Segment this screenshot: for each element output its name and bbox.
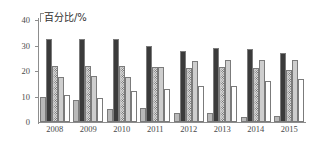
y-tick-mark — [35, 71, 38, 72]
bar-2012-series-4 — [192, 61, 198, 122]
x-tick-label: 2015 — [272, 125, 306, 134]
bar-2014-series-1 — [241, 117, 247, 122]
bar-2013-series-5 — [231, 86, 237, 122]
bar-2014-series-3 — [253, 68, 259, 122]
bar-2009-series-1 — [73, 100, 79, 122]
chart-title: 百分比/% — [44, 12, 87, 23]
bar-2015-series-1 — [274, 116, 280, 122]
bar-2012-series-2 — [180, 51, 186, 122]
bar-2014-series-4 — [259, 60, 265, 122]
y-tick-label: 0 — [8, 118, 30, 127]
x-tick-label: 2008 — [38, 125, 72, 134]
bar-2009-series-2 — [79, 39, 85, 122]
bar-2010-series-4 — [125, 77, 131, 122]
bar-2013-series-2 — [213, 48, 219, 122]
bar-chart: 百分比/% 010203040 200820092010201120122013… — [0, 0, 316, 154]
bar-2012-series-3 — [186, 68, 192, 122]
x-tick-label: 2014 — [239, 125, 273, 134]
bar-2013-series-1 — [207, 113, 213, 122]
x-tick-label: 2013 — [205, 125, 239, 134]
y-tick-label: 30 — [8, 42, 30, 51]
bar-2014-series-2 — [247, 49, 253, 122]
bar-2010-series-3 — [119, 66, 125, 122]
bar-2012-series-1 — [174, 113, 180, 122]
bar-2011-series-2 — [146, 46, 152, 123]
bar-2015-series-4 — [292, 60, 298, 122]
y-tick-mark — [35, 97, 38, 98]
bar-2011-series-1 — [140, 108, 146, 122]
x-tick-label: 2010 — [105, 125, 139, 134]
y-tick-label: 10 — [8, 93, 30, 102]
bar-2014-series-5 — [265, 81, 271, 122]
bar-2008-series-1 — [40, 97, 46, 123]
y-tick-label: 40 — [8, 16, 30, 25]
bar-2009-series-4 — [91, 76, 97, 122]
bar-2008-series-4 — [58, 77, 64, 122]
bar-2011-series-4 — [158, 67, 164, 122]
bar-2010-series-1 — [107, 109, 113, 122]
bar-2009-series-3 — [85, 66, 91, 122]
x-tick-label: 2011 — [138, 125, 172, 134]
bar-2013-series-3 — [219, 67, 225, 122]
y-tick-label: 20 — [8, 67, 30, 76]
bar-2015-series-5 — [298, 79, 304, 122]
bar-2012-series-5 — [198, 86, 204, 122]
bar-2011-series-3 — [152, 67, 158, 122]
y-axis — [38, 18, 39, 124]
x-tick-label: 2012 — [172, 125, 206, 134]
y-tick-mark — [35, 20, 38, 21]
bar-2015-series-3 — [286, 70, 292, 122]
bar-2009-series-5 — [97, 98, 103, 122]
bar-2013-series-4 — [225, 60, 231, 122]
x-tick-label: 2009 — [71, 125, 105, 134]
x-axis — [38, 122, 306, 123]
bar-2010-series-5 — [131, 91, 137, 122]
bar-2008-series-5 — [64, 95, 70, 122]
bar-2010-series-2 — [113, 39, 119, 122]
bar-2011-series-5 — [164, 89, 170, 122]
title-bracket — [40, 13, 41, 22]
bar-2008-series-2 — [46, 39, 52, 122]
bar-2015-series-2 — [280, 53, 286, 122]
y-tick-mark — [35, 46, 38, 47]
bar-2008-series-3 — [52, 66, 58, 122]
